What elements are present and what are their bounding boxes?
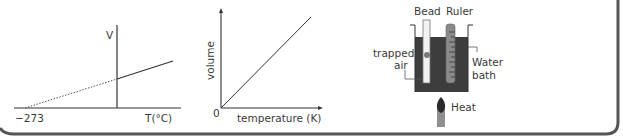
bead-label: Bead xyxy=(414,6,441,17)
celsius-y-label: V xyxy=(106,30,113,41)
ruler xyxy=(446,24,455,83)
charles-law-figure: V −273 T(°C) volume 0 temperature (K) Be… xyxy=(0,0,623,139)
kelvin-y-label: volume xyxy=(205,41,216,80)
trapped-air-label-line1: trapped xyxy=(373,48,414,59)
glass-tube xyxy=(423,20,430,83)
chart-celsius xyxy=(14,25,181,108)
extrapolated-line xyxy=(25,79,117,108)
celsius-x-label: T(°C) xyxy=(145,113,172,124)
celsius-x-intercept-label: −273 xyxy=(15,113,44,124)
water-bath-label-line1: Water xyxy=(472,57,503,68)
trapped-air-label-line2: air xyxy=(394,60,408,71)
bead-icon xyxy=(424,52,430,58)
y-axis-arrow-icon xyxy=(219,8,223,13)
chart-kelvin xyxy=(219,8,323,110)
water-bath-leader xyxy=(468,47,477,52)
ruler-label: Ruler xyxy=(446,6,473,17)
x-axis-arrow-icon xyxy=(318,106,323,110)
kelvin-x-label: temperature (K) xyxy=(237,113,321,124)
volume-line xyxy=(221,17,311,108)
measured-line xyxy=(117,61,173,79)
kelvin-origin-label: 0 xyxy=(213,108,220,119)
water-bath-label-line2: bath xyxy=(472,70,496,81)
heat-label: Heat xyxy=(451,102,476,113)
